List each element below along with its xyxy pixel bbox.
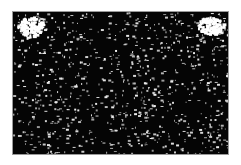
noise-image [12, 11, 229, 155]
speckle-field [13, 12, 228, 154]
